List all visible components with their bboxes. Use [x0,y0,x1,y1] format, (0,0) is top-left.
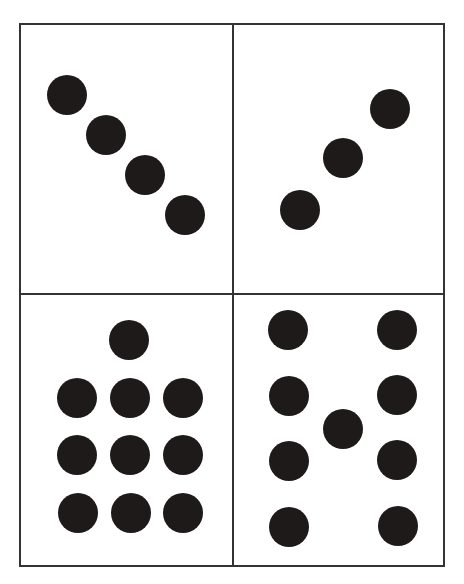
dot [57,435,97,475]
dot [110,378,150,418]
dot [268,310,308,350]
panel-bottom-left [57,320,203,533]
dot [125,155,165,195]
panel-bottom-right [268,310,418,547]
dot [323,409,363,449]
dot [269,376,309,416]
dot [323,138,363,178]
dot [165,195,205,235]
dot [47,75,87,115]
dot [109,320,149,360]
dot [86,115,126,155]
dot [110,435,150,475]
dot [269,441,309,481]
dot [163,435,203,475]
dot [163,493,203,533]
dot [378,506,418,546]
dot [111,493,151,533]
dot-panels-figure [0,0,464,584]
panel-top-right [280,89,410,230]
dot [370,89,410,129]
dot [377,440,417,480]
dot [58,493,98,533]
dot [377,375,417,415]
dot [163,378,203,418]
dot [57,378,97,418]
panel-top-left [47,75,205,235]
dot [377,310,417,350]
dot [280,190,320,230]
dot [269,507,309,547]
